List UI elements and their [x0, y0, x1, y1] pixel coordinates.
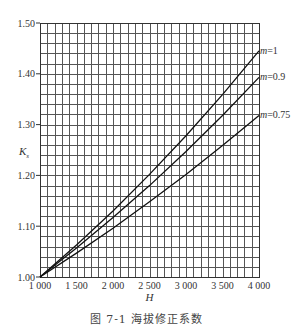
y-tick-label: 1.50	[18, 18, 36, 29]
x-tick-label: 4 000	[248, 280, 271, 291]
y-tick-label: 1.40	[18, 68, 36, 79]
figure-caption: 图 7-1 海拔修正系数	[0, 310, 293, 326]
y-tick-label: 1.10	[18, 221, 36, 232]
grid	[40, 23, 260, 278]
x-tick-label: 3 000	[175, 280, 198, 291]
y-tick-label: 1.20	[18, 170, 36, 181]
x-tick-label: 3 500	[211, 280, 234, 291]
chart: 1.001.101.201.301.401.501 0001 5002 0002…	[0, 0, 293, 331]
x-tick-label: 1 000	[29, 280, 52, 291]
y-axis-label: Ks	[18, 145, 29, 160]
x-tick-label: 2 500	[138, 280, 161, 291]
series-label: m=0.9	[260, 71, 285, 82]
series-label: m=0.75	[260, 109, 290, 120]
x-axis-label: H	[145, 291, 155, 303]
series-label: m=1	[260, 45, 278, 56]
x-tick-label: 1 500	[65, 280, 88, 291]
labels: m=1m=0.9m=0.75	[260, 45, 290, 121]
x-tick-label: 2 000	[102, 280, 125, 291]
y-tick-label: 1.30	[18, 119, 36, 130]
